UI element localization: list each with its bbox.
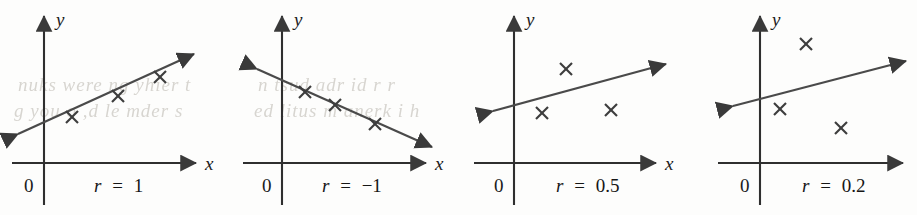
y-axis-label: y [770, 9, 781, 30]
r-symbol: r [556, 175, 564, 196]
r-equals: = [340, 175, 351, 196]
r-symbol: r [94, 175, 102, 196]
y-axis-label: y [54, 9, 65, 30]
data-points [66, 71, 166, 123]
x-axis-label: x [204, 153, 214, 174]
origin-label: 0 [24, 175, 34, 196]
r-symbol: r [802, 175, 810, 196]
data-point-marker [112, 90, 124, 102]
data-point-marker [560, 63, 572, 75]
r-value: −1 [362, 175, 382, 196]
scatter-panel-r-1: y x 0 r = 1 [0, 0, 230, 215]
r-equals: = [112, 175, 123, 196]
scatter-panel-r-0-2: y 0 r = 0.2 [690, 0, 917, 215]
data-point-marker [774, 103, 786, 115]
scatter-panel-r-0-5: y x 0 r = 0.5 [460, 0, 690, 215]
origin-label: 0 [494, 175, 504, 196]
correlation-label: r = 0.5 [556, 175, 619, 196]
origin-label: 0 [262, 175, 272, 196]
trend-line [257, 69, 432, 147]
data-point-marker [605, 104, 617, 116]
y-axis-label: y [292, 9, 303, 30]
correlation-label: r = 1 [94, 175, 143, 196]
data-point-marker [154, 71, 166, 83]
correlation-label: r = 0.2 [802, 175, 865, 196]
x-axis-label: x [434, 153, 444, 174]
correlation-label: r = −1 [322, 175, 382, 196]
origin-label: 0 [740, 175, 750, 196]
data-point-marker [835, 122, 847, 134]
data-point-marker [800, 38, 812, 50]
data-point-marker [66, 111, 78, 123]
y-axis-label: y [524, 9, 535, 30]
r-value: 1 [134, 175, 144, 196]
r-value: 0.2 [842, 175, 866, 196]
trend-line [493, 64, 666, 111]
data-points [536, 63, 617, 119]
correlation-scatter-figure: nuks were ng yhier t g you o ,d le mder … [0, 0, 917, 215]
r-equals: = [820, 175, 831, 196]
r-equals: = [574, 175, 585, 196]
x-axis-label: x [664, 153, 674, 174]
r-symbol: r [322, 175, 330, 196]
data-point-marker [536, 107, 548, 119]
scatter-panel-r-minus-1: y x 0 r = −1 [230, 0, 460, 215]
r-value: 0.5 [596, 175, 620, 196]
